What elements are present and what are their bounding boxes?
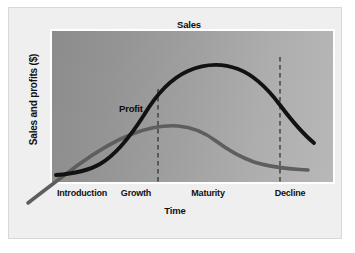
sales-curve-label: Sales: [177, 19, 201, 30]
curves-svg: [52, 31, 333, 182]
stage-label-decline: Decline: [259, 188, 321, 198]
x-axis-title: Time: [9, 205, 341, 216]
stage-label-growth: Growth: [110, 188, 162, 198]
profit-curve-label: Profit: [119, 103, 143, 114]
plot-area: [52, 31, 333, 182]
product-life-cycle-chart: Sales and profits ($) Sales Profit Intro…: [9, 8, 341, 238]
stage-label-maturity: Maturity: [172, 188, 244, 198]
y-axis-title: Sales and profits ($): [28, 30, 39, 170]
figure-card: Sales and profits ($) Sales Profit Intro…: [8, 7, 342, 239]
stage-label-introduction: Introduction: [46, 188, 118, 198]
plot-frame: [50, 29, 335, 184]
sales-curve: [56, 65, 314, 175]
